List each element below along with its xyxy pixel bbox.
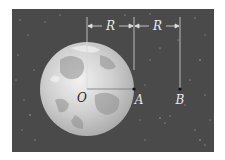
point-o-label: O — [77, 91, 87, 105]
point-b-marker — [178, 87, 181, 90]
dimension-label-r2: R — [152, 19, 162, 33]
dimension-label-r1: R — [105, 19, 115, 33]
point-a-marker — [132, 87, 135, 90]
point-b-label: B — [175, 93, 185, 107]
point-a-label: A — [134, 93, 144, 107]
diagram-canvas: R R O A B — [0, 0, 225, 160]
